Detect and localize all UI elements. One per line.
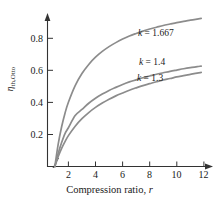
y-tick-label-02: 0.2 — [18, 129, 43, 140]
x-tick-label-2: 2 — [58, 169, 79, 180]
x-axis-title: Compression ratio, r — [0, 184, 219, 195]
y-axis-arrow-icon — [45, 13, 51, 21]
curve-annotation-k-14: k = 1.4 — [139, 57, 165, 67]
curve-k-13 — [55, 72, 201, 166]
y-tick-marks — [48, 38, 54, 134]
curve-k-1667 — [55, 18, 201, 166]
x-axis-title-variable: r — [149, 184, 153, 195]
data-curves-group — [55, 18, 201, 166]
y-tick-label-08: 0.8 — [18, 33, 43, 44]
otto-efficiency-chart: 0.8 0.6 0.4 0.2 2 4 6 8 10 12 Compressio… — [0, 0, 219, 203]
x-axis-title-text: Compression ratio, — [66, 184, 149, 195]
k-equals-value-2: = 1.3 — [141, 73, 163, 83]
y-axis-title-symbol: η — [5, 86, 15, 91]
curve-annotation-k-1667: k = 1.667 — [138, 28, 174, 38]
x-tick-label-4: 4 — [85, 169, 106, 180]
y-axis-title: ηth,Otto — [5, 53, 15, 105]
x-tick-label-8: 8 — [139, 169, 160, 180]
k-equals-value-0: = 1.667 — [142, 28, 173, 38]
x-tick-label-10: 10 — [166, 169, 187, 180]
x-tick-marks — [68, 162, 204, 167]
y-tick-label-04: 0.4 — [18, 97, 43, 108]
k-equals-value-1: = 1.4 — [143, 57, 165, 67]
y-axis-title-subscript: th,Otto — [9, 67, 17, 87]
y-tick-label-06: 0.6 — [18, 65, 43, 76]
curve-annotation-k-13: k = 1.3 — [137, 73, 163, 83]
x-tick-label-6: 6 — [112, 169, 133, 180]
x-tick-label-12: 12 — [193, 169, 214, 180]
